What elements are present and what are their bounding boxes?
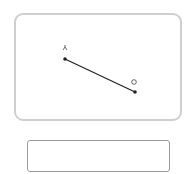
person-icon	[63, 45, 67, 50]
circle-marker-icon	[132, 80, 137, 85]
drawing-canvas[interactable]	[14, 13, 182, 121]
end-point[interactable]	[133, 90, 137, 94]
answer-input[interactable]	[27, 140, 170, 172]
line-segment	[65, 59, 135, 92]
start-point[interactable]	[63, 57, 67, 61]
segment-drawing	[16, 15, 180, 119]
